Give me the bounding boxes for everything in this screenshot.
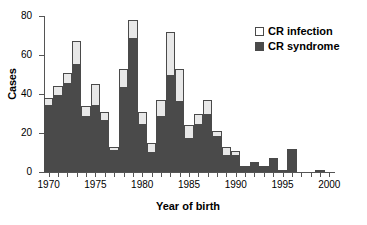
- bar-segment-cr-infection: [203, 100, 212, 116]
- bar-segment-cr-infection: [63, 73, 72, 85]
- x-tick: [273, 173, 274, 177]
- bar-group: [63, 16, 72, 172]
- bar-segment-cr-syndrome: [203, 115, 212, 172]
- bar-segment-cr-infection: [53, 86, 62, 96]
- bar-segment-cr-infection: [109, 147, 118, 151]
- x-tick: [208, 173, 209, 177]
- bar-segment-cr-infection: [100, 112, 109, 122]
- chart-figure: Cases Year of birth 020406080 1970197519…: [0, 0, 367, 225]
- legend-label-cr-infection: CR infection: [268, 25, 333, 37]
- x-tick-label: 2000: [309, 179, 349, 190]
- y-axis-title: Cases: [6, 49, 18, 119]
- x-tick: [264, 173, 265, 177]
- x-tick: [329, 173, 330, 177]
- bar-group: [175, 16, 184, 172]
- bar-segment-cr-syndrome: [194, 125, 203, 172]
- bar-segment-cr-syndrome: [147, 153, 156, 173]
- bar-segment-cr-syndrome: [166, 76, 175, 172]
- bar-segment-cr-infection: [222, 147, 231, 157]
- bar-segment-cr-syndrome: [212, 137, 221, 172]
- x-tick: [77, 173, 78, 177]
- x-tick-label: 1975: [75, 179, 115, 190]
- bar-group: [91, 16, 100, 172]
- bar-segment-cr-infection: [259, 166, 268, 168]
- bar-group: [156, 16, 165, 172]
- bar-segment-cr-infection: [128, 20, 137, 40]
- x-tick: [49, 173, 50, 177]
- x-tick: [198, 173, 199, 177]
- bar-group: [203, 16, 212, 172]
- bar-group: [231, 16, 240, 172]
- x-tick: [161, 173, 162, 177]
- bar-group: [72, 16, 81, 172]
- bar-segment-cr-infection: [287, 149, 296, 151]
- bar-segment-cr-infection: [81, 106, 90, 118]
- x-tick: [301, 173, 302, 177]
- bar-group: [147, 16, 156, 172]
- bar-segment-cr-syndrome: [269, 160, 278, 172]
- x-tick: [133, 173, 134, 177]
- bar-segment-cr-syndrome: [259, 168, 268, 172]
- x-tick: [283, 173, 284, 177]
- bar-segment-cr-syndrome: [72, 65, 81, 172]
- bar-segment-cr-infection: [269, 158, 278, 160]
- bar-segment-cr-infection: [44, 98, 53, 106]
- bar-group: [81, 16, 90, 172]
- legend-item-cr-infection: CR infection: [255, 25, 340, 37]
- x-tick: [114, 173, 115, 177]
- bar-segment-cr-infection: [72, 41, 81, 64]
- bar-group: [184, 16, 193, 172]
- bar-segment-cr-syndrome: [175, 102, 184, 172]
- x-tick: [86, 173, 87, 177]
- x-tick: [217, 173, 218, 177]
- x-tick: [142, 173, 143, 177]
- bar-segment-cr-syndrome: [119, 88, 128, 172]
- bar-segment-cr-syndrome: [240, 166, 249, 172]
- bar-segment-cr-syndrome: [278, 170, 287, 172]
- bar-segment-cr-syndrome: [231, 156, 240, 172]
- legend-swatch-cr-infection: [255, 27, 264, 36]
- chart-legend: CR infection CR syndrome: [255, 25, 340, 55]
- legend-swatch-cr-syndrome: [255, 42, 264, 51]
- bar-group: [240, 16, 249, 172]
- bar-segment-cr-infection: [147, 143, 156, 153]
- bar-group: [44, 16, 53, 172]
- x-tick: [105, 173, 106, 177]
- x-tick-label: 1970: [29, 179, 69, 190]
- x-tick: [320, 173, 321, 177]
- x-tick: [236, 173, 237, 177]
- bar-segment-cr-syndrome: [315, 170, 324, 172]
- bar-segment-cr-syndrome: [250, 162, 259, 172]
- y-tick-label: 60: [21, 48, 32, 61]
- bar-segment-cr-infection: [231, 151, 240, 157]
- x-tick: [311, 173, 312, 177]
- bar-segment-cr-syndrome: [222, 156, 231, 172]
- x-tick: [95, 173, 96, 177]
- x-axis-title: Year of birth: [38, 200, 338, 212]
- bar-group: [128, 16, 137, 172]
- y-tick-label: 40: [21, 87, 32, 100]
- x-tick: [180, 173, 181, 177]
- bar-group: [109, 16, 118, 172]
- x-tick-label: 1995: [263, 179, 303, 190]
- bar-group: [166, 16, 175, 172]
- x-tick-label: 1990: [216, 179, 256, 190]
- bar-group: [212, 16, 221, 172]
- bar-segment-cr-infection: [119, 69, 128, 89]
- x-tick: [67, 173, 68, 177]
- bar-group: [222, 16, 231, 172]
- bar-segment-cr-syndrome: [63, 84, 72, 172]
- bar-group: [194, 16, 203, 172]
- bar-segment-cr-syndrome: [91, 106, 100, 172]
- y-tick: 0: [39, 172, 44, 173]
- x-tick-label: 1985: [169, 179, 209, 190]
- bar-segment-cr-syndrome: [81, 117, 90, 172]
- bar-segment-cr-infection: [212, 131, 221, 137]
- bar-segment-cr-infection: [91, 84, 100, 105]
- bar-group: [119, 16, 128, 172]
- bar-segment-cr-infection: [156, 100, 165, 118]
- bar-segment-cr-syndrome: [109, 151, 118, 172]
- y-tick-label: 0: [26, 165, 32, 178]
- bar-segment-cr-syndrome: [156, 117, 165, 172]
- x-tick: [124, 173, 125, 177]
